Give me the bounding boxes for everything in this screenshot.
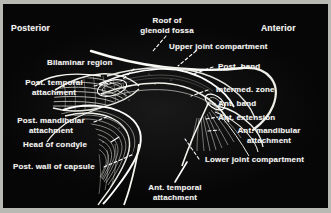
label-upper-joint-compartment: Upper joint compartment (169, 42, 268, 52)
label-ant-temporal-attachment: Ant. temporal attachment (133, 183, 217, 202)
label-roof-of-glenoid-fossa: Roof of glenoid fossa (127, 16, 207, 35)
label-post-temporal-attachment: Post. temporal attachment (15, 78, 93, 97)
label-post-wall-of-capsule: Post. wall of capsule (13, 162, 95, 172)
illustration-canvas: Posterior Anterior Roof of glenoid fossa… (3, 4, 328, 208)
label-bilaminar-region: Bilaminar region (47, 58, 113, 68)
label-ant-extension: Ant. extension (218, 113, 275, 123)
figure-plate: Posterior Anterior Roof of glenoid fossa… (0, 0, 331, 213)
label-ant-band: Ant. band (218, 99, 256, 109)
label-ant-mandibular-attachment: Ant. mandibular attachment (221, 126, 317, 145)
orientation-label-anterior: Anterior (261, 24, 296, 34)
label-post-mandibular-attachment: Post. mandibular attachment (9, 116, 93, 135)
label-head-of-condyle: Head of condyle (23, 140, 87, 150)
label-post-band: Post. band (218, 62, 260, 72)
label-intermed-zone: Intermed. zone (216, 85, 275, 95)
orientation-label-posterior: Posterior (11, 24, 50, 34)
label-lower-joint-compartment: Lower joint compartment (205, 155, 304, 165)
